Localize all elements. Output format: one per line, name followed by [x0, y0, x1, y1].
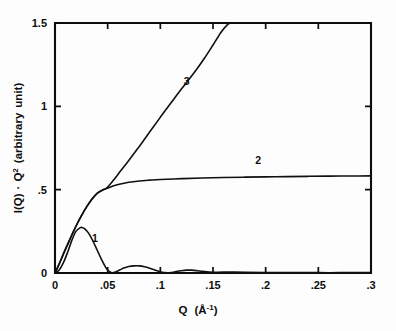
- data-series-group: [55, 23, 371, 273]
- y-tick-label: .5: [38, 184, 47, 196]
- curve-series-1: [55, 227, 371, 273]
- svg-text:Q(Å-1): Q(Å-1): [178, 303, 217, 316]
- figure-container: 0.05.1.15.2.25.3 0.511.5 123 Q(Å-1) I(Q)…: [0, 0, 396, 331]
- x-axis-tick-labels: 0.05.1.15.2.25.3: [52, 279, 376, 291]
- x-tick-label: .3: [366, 279, 375, 291]
- y-axis-title: I(Q)·Q2(arbitraryunit): [11, 83, 24, 214]
- x-tick-label: 0: [52, 279, 58, 291]
- x-tick-label: .05: [100, 279, 115, 291]
- curve-number-labels: 123: [92, 75, 261, 245]
- x-axis-title: Q(Å-1): [178, 303, 217, 316]
- x-tick-label: .1: [156, 279, 165, 291]
- y-tick-label: 1.5: [32, 17, 47, 29]
- axis-ticks: [55, 23, 371, 273]
- y-axis-tick-labels: 0.511.5: [32, 17, 47, 279]
- curve-series-3: [55, 23, 231, 273]
- curve-label-1: 1: [92, 232, 98, 244]
- y-tick-label: 0: [41, 267, 47, 279]
- scatter-intensity-chart: 0.05.1.15.2.25.3 0.511.5 123 Q(Å-1) I(Q)…: [0, 0, 396, 331]
- curve-label-2: 2: [255, 154, 261, 166]
- x-tick-label: .25: [311, 279, 326, 291]
- svg-text:I(Q)·Q2(arbitraryunit): I(Q)·Q2(arbitraryunit): [11, 83, 24, 214]
- axes-frame: [55, 23, 371, 273]
- x-tick-label: .2: [261, 279, 270, 291]
- curve-label-3: 3: [184, 75, 190, 87]
- y-tick-label: 1: [41, 100, 47, 112]
- x-tick-label: .15: [205, 279, 220, 291]
